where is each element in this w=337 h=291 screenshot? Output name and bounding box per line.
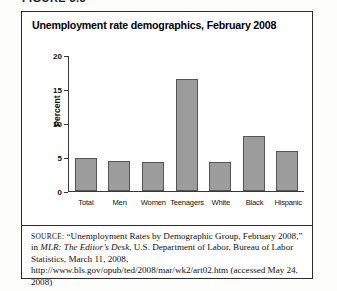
- x-axis-label: Teenagers: [170, 198, 204, 207]
- plot-area: 05101520: [68, 56, 300, 192]
- bar-slot: [203, 56, 237, 191]
- source-publication-title: MLR: The Editor’s Desk: [40, 242, 129, 252]
- bar: [209, 162, 231, 191]
- figure-title: Unemployment rate demographics, February…: [32, 19, 276, 31]
- bar-slot: [136, 56, 170, 191]
- y-tick: [64, 56, 68, 57]
- x-axis-label: Men: [103, 198, 137, 207]
- x-axis-label: Black: [238, 198, 272, 207]
- y-tick-label: 15: [53, 86, 62, 95]
- bar-chart: Percent 05101520 TotalMenWomenTeenagersW…: [30, 48, 306, 220]
- x-axis-labels: TotalMenWomenTeenagersWhiteBlackHispanic: [69, 198, 305, 207]
- bar: [108, 161, 130, 190]
- x-axis-label: Total: [69, 198, 103, 207]
- bar: [75, 158, 97, 191]
- bar-slot: [270, 56, 304, 191]
- y-tick-label: 5: [58, 154, 62, 163]
- figure-box: Unemployment rate demographics, February…: [21, 11, 313, 279]
- x-axis-line: [68, 191, 304, 192]
- y-tick: [64, 158, 68, 159]
- source-note: SOURCE: “Unemployment Rates by Demograph…: [31, 231, 304, 288]
- bar-series: [69, 56, 304, 191]
- source-divider: [22, 225, 312, 226]
- figure-page: FIGURE 3.3 Unemployment rate demographic…: [0, 0, 337, 291]
- y-tick: [64, 192, 68, 193]
- y-tick: [64, 90, 68, 91]
- bar: [243, 136, 265, 190]
- x-axis-label: Women: [136, 198, 170, 207]
- bar: [142, 162, 164, 191]
- bar: [176, 79, 198, 191]
- y-tick-label: 0: [58, 188, 62, 197]
- y-tick: [64, 124, 68, 125]
- bar-slot: [237, 56, 271, 191]
- x-axis-label: White: [204, 198, 238, 207]
- bar-slot: [103, 56, 137, 191]
- x-axis-label: Hispanic: [271, 198, 305, 207]
- source-label: SOURCE:: [31, 232, 64, 241]
- bar-slot: [170, 56, 204, 191]
- y-tick-label: 10: [53, 120, 62, 129]
- y-tick-label: 20: [53, 52, 62, 61]
- figure-number-label: FIGURE 3.3: [22, 0, 86, 4]
- bar-slot: [69, 56, 103, 191]
- bar: [276, 151, 298, 191]
